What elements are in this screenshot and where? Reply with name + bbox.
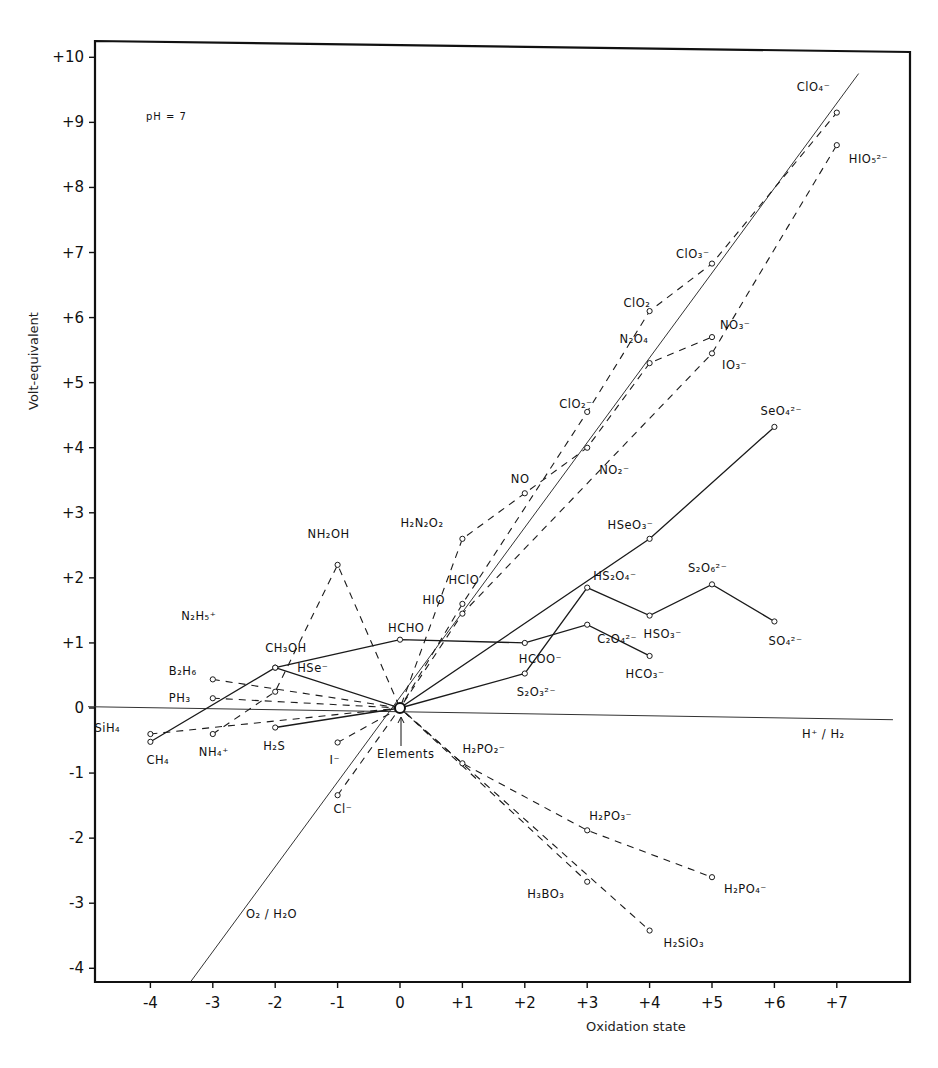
data-point <box>273 665 278 670</box>
species-label: ClO₄⁻ <box>797 80 830 94</box>
species-label: NH₂OH <box>308 527 350 541</box>
species-label: NO <box>511 472 530 486</box>
species-label: H₂PO₂⁻ <box>462 742 505 756</box>
species-label: HIO₅²⁻ <box>849 152 888 166</box>
data-point <box>834 110 839 115</box>
y-axis-title: Volt-equivalent <box>26 312 41 410</box>
reference-lines <box>88 74 893 982</box>
y-tick-label: +5 <box>62 374 84 392</box>
y-tick-label: +6 <box>62 309 84 327</box>
y-tick-label: +7 <box>62 244 84 262</box>
data-point <box>709 335 714 340</box>
data-point <box>273 689 278 694</box>
frost-diagram: CH₄CH₃OHHCHOHCOO⁻C₂O₄²⁻HCO₃⁻H₂SS₂O₃²⁻HS₂… <box>0 0 938 1068</box>
series-line-chlorine <box>338 113 837 796</box>
species-label: IO₃⁻ <box>722 358 747 372</box>
species-label: I⁻ <box>330 753 340 767</box>
x-tick-label: -1 <box>330 994 345 1012</box>
x-tick-label: +6 <box>763 994 785 1012</box>
data-point <box>834 143 839 148</box>
species-label: HSe⁻ <box>297 661 328 675</box>
data-point <box>335 562 340 567</box>
x-tick-label: +7 <box>826 994 848 1012</box>
species-label: NO₃⁻ <box>720 318 750 332</box>
data-point <box>647 536 652 541</box>
data-point <box>772 619 777 624</box>
data-point <box>709 351 714 356</box>
species-label: NO₂⁻ <box>599 463 629 477</box>
species-label: NH₄⁺ <box>199 745 229 759</box>
data-point <box>335 740 340 745</box>
species-label: PH₃ <box>169 691 191 705</box>
data-point <box>522 491 527 496</box>
species-label: SeO₄²⁻ <box>760 404 802 418</box>
data-point <box>585 622 590 627</box>
y-tick-label: +2 <box>62 569 84 587</box>
x-tick-label: +1 <box>451 994 473 1012</box>
y-tick-label: 0 <box>74 699 84 717</box>
species-label: SO₄²⁻ <box>768 634 802 648</box>
data-point <box>647 361 652 366</box>
species-labels: CH₄CH₃OHHCHOHCOO⁻C₂O₄²⁻HCO₃⁻H₂SS₂O₃²⁻HS₂… <box>94 80 888 950</box>
data-point <box>585 445 590 450</box>
species-label: HIO <box>422 593 445 607</box>
species-label: ClO₂ <box>624 296 651 310</box>
species-label: C₂O₄²⁻ <box>597 632 637 646</box>
data-point <box>273 725 278 730</box>
reference-line-o2-h2o <box>191 74 859 982</box>
y-tick-label: +9 <box>62 113 84 131</box>
data-point <box>647 653 652 658</box>
species-label: S₂O₃²⁻ <box>517 685 556 699</box>
data-point <box>709 582 714 587</box>
species-label: H₂PO₄⁻ <box>724 882 767 896</box>
x-tick-label: -4 <box>143 994 158 1012</box>
data-point <box>772 424 777 429</box>
species-label: H₂PO₃⁻ <box>589 809 632 823</box>
data-point <box>460 536 465 541</box>
species-label: SiH₄ <box>94 721 120 735</box>
species-label: N₂O₄ <box>620 332 649 346</box>
y-tick-label: +4 <box>62 439 84 457</box>
plot-frame <box>95 41 910 982</box>
data-point <box>585 879 590 884</box>
series-line-silicon <box>150 708 649 931</box>
y-tick-label: -2 <box>69 829 84 847</box>
data-point <box>522 671 527 676</box>
data-point <box>335 793 340 798</box>
y-tick-label: +3 <box>62 504 84 522</box>
y-tick-label: -3 <box>69 894 84 912</box>
x-tick-label: 0 <box>395 994 405 1012</box>
data-point <box>210 677 215 682</box>
x-tick-label: +5 <box>701 994 723 1012</box>
species-label: HSO₃⁻ <box>644 627 682 641</box>
data-point <box>585 828 590 833</box>
data-points <box>148 110 840 933</box>
series-lines <box>150 113 836 931</box>
data-point <box>460 601 465 606</box>
x-axis-title: Oxidation state <box>586 1019 686 1034</box>
data-point <box>709 261 714 266</box>
data-point <box>210 731 215 736</box>
species-label: CH₃OH <box>265 641 307 655</box>
species-label: B₂H₆ <box>169 664 197 678</box>
x-tick-label: +4 <box>639 994 661 1012</box>
elements-label: Elements <box>377 747 435 761</box>
y-tick-label: -4 <box>69 959 84 977</box>
species-label: ClO₂⁻ <box>559 397 592 411</box>
species-label: H₃BO₃ <box>527 887 564 901</box>
data-point <box>460 611 465 616</box>
data-point <box>585 585 590 590</box>
ph-annotation: pH = 7 <box>146 111 187 122</box>
x-tick-label: -3 <box>205 994 220 1012</box>
species-label: ClO₃⁻ <box>676 247 709 261</box>
plot-border <box>95 41 910 982</box>
species-label: S₂O₆²⁻ <box>688 561 727 575</box>
axis-ticks: +10+9+8+7+6+5+4+3+2+10-1-2-3-4-4-3-2-10+… <box>52 48 848 1012</box>
x-tick-label: -2 <box>268 994 283 1012</box>
species-label: HSeO₃⁻ <box>608 518 654 532</box>
data-point <box>709 875 714 880</box>
series-line-iodine <box>338 145 837 742</box>
y-tick-label: -1 <box>69 764 84 782</box>
species-label: Cl⁻ <box>334 802 353 816</box>
data-point <box>148 731 153 736</box>
